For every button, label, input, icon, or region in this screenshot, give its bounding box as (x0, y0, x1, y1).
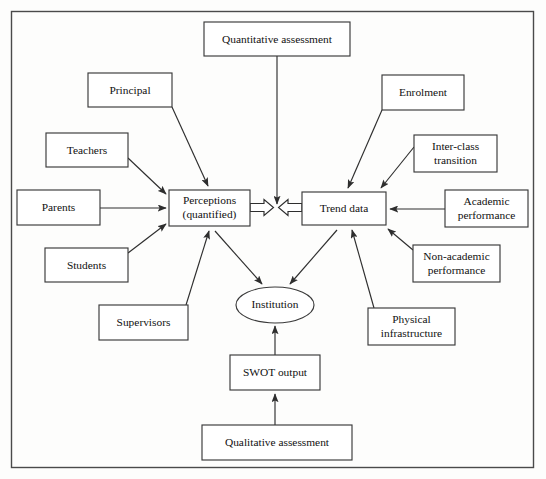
node-label-non-academic-performance-line2: performance (428, 264, 486, 276)
node-label-institution: Institution (252, 298, 299, 310)
edge-principal-to-perceptions (172, 107, 208, 186)
node-label-perceptions-line2: (quantified) (183, 208, 237, 221)
node-enrolment[interactable]: Enrolment (382, 75, 464, 110)
node-label-perceptions-line1: Perceptions (183, 194, 237, 206)
node-label-quantitative-assessment: Quantitative assessment (222, 33, 333, 45)
node-swot-output[interactable]: SWOT output (230, 355, 320, 390)
node-label-teachers: Teachers (67, 144, 108, 156)
node-principal[interactable]: Principal (88, 73, 172, 107)
node-quantitative-assessment[interactable]: Quantitative assessment (204, 22, 350, 56)
node-label-students: Students (67, 259, 107, 271)
node-label-parents: Parents (42, 201, 76, 213)
nodes-layer: Quantitative assessment Principal Enrolm… (17, 22, 528, 460)
node-label-academic-performance-line1: Academic (463, 195, 509, 207)
node-label-physical-infrastructure-line1: Physical (392, 313, 431, 325)
node-label-enrolment: Enrolment (399, 86, 448, 98)
node-label-principal: Principal (109, 84, 150, 96)
edge-trend-data-to-institution (290, 230, 337, 284)
node-label-trend-data: Trend data (320, 202, 369, 214)
node-label-non-academic-performance-line1: Non-academic (423, 250, 489, 262)
node-institution[interactable]: Institution (236, 287, 314, 323)
node-supervisors[interactable]: Supervisors (99, 305, 188, 340)
edge-students-to-perceptions (128, 224, 166, 253)
node-inter-class-transition[interactable]: Inter-class transition (414, 135, 497, 172)
node-parents[interactable]: Parents (17, 190, 100, 225)
institution-assessment-diagram: Quantitative assessment Principal Enrolm… (0, 0, 546, 479)
node-students[interactable]: Students (45, 248, 128, 282)
node-label-swot-output: SWOT output (243, 366, 308, 378)
edge-enrolment-to-trend-data (348, 110, 382, 188)
node-label-academic-performance-line2: performance (458, 209, 516, 221)
node-qualitative-assessment[interactable]: Qualitative assessment (202, 425, 352, 460)
edge-perceptions-to-institution (215, 231, 262, 284)
node-label-supervisors: Supervisors (117, 316, 171, 328)
node-trend-data[interactable]: Trend data (302, 192, 386, 225)
node-physical-infrastructure[interactable]: Physical infrastructure (368, 308, 455, 345)
node-label-inter-class-transition-line2: transition (434, 154, 477, 166)
node-non-academic-performance[interactable]: Non-academic performance (413, 245, 500, 282)
edge-non-academic-performance-to-trend-data (388, 229, 413, 250)
edge-supervisors-to-perceptions (186, 231, 209, 305)
node-label-inter-class-transition-line1: Inter-class (432, 140, 480, 152)
node-perceptions[interactable]: Perceptions (quantified) (169, 190, 250, 226)
node-teachers[interactable]: Teachers (46, 133, 128, 167)
node-label-qualitative-assessment: Qualitative assessment (225, 436, 330, 448)
node-label-physical-infrastructure-line2: infrastructure (381, 327, 442, 339)
edge-teachers-to-perceptions (128, 158, 166, 194)
edge-trend-data-to-centre-block-arrow (279, 200, 303, 216)
diagram-canvas: Quantitative assessment Principal Enrolm… (0, 0, 546, 479)
node-academic-performance[interactable]: Academic performance (445, 190, 528, 227)
edge-perceptions-to-centre-block-arrow (250, 200, 274, 216)
edge-physical-infrastructure-to-trend-data (352, 230, 374, 308)
edge-inter-class-transition-to-trend-data (381, 147, 414, 188)
